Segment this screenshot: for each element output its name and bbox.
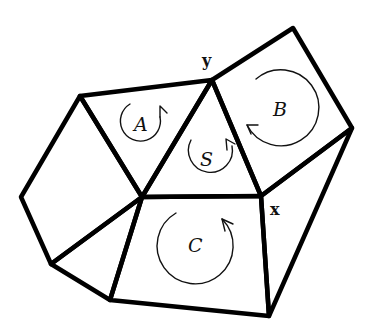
polygon-mesh-diagram: A S B C y x — [0, 0, 368, 332]
lower-left-face-outline — [51, 197, 142, 300]
right-face-outline — [261, 128, 352, 316]
face-s-label: S — [200, 148, 213, 170]
face-s-outline — [142, 80, 261, 197]
face-b-label: B — [272, 98, 287, 120]
vertex-label-y: y — [201, 51, 212, 70]
vertex-label-x: x — [270, 200, 280, 219]
face-a-label: A — [132, 113, 148, 135]
face-c-outline — [110, 196, 269, 316]
mesh-edges — [21, 28, 352, 316]
face-c-label: C — [188, 234, 203, 256]
face-a-outline — [80, 80, 212, 197]
